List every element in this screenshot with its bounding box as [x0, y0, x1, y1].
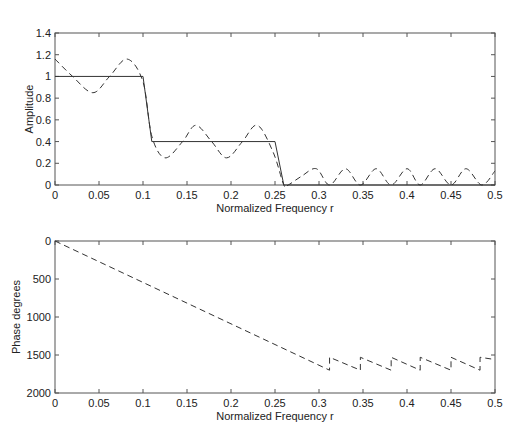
x-tick-label: 0.1: [135, 397, 150, 409]
series-line-desired-response: [55, 76, 495, 185]
y-tick-label: 2000: [27, 387, 51, 399]
x-tick-label: 0: [52, 397, 58, 409]
x-tick-label: 0.15: [176, 397, 197, 409]
x-tick-label: 0.5: [487, 397, 502, 409]
y-tick-label: 1: [45, 70, 51, 82]
x-tick-label: 0.45: [440, 397, 461, 409]
x-tick-label: 0.05: [88, 397, 109, 409]
y-tick-label: 0: [45, 235, 51, 247]
series-line-designed-filter-response: [55, 59, 495, 188]
x-axis-label: Normalized Frequency r: [216, 202, 334, 214]
figure: 00.050.10.150.20.250.30.350.40.450.500.2…: [0, 0, 521, 430]
y-axis-label: Phase degrees: [10, 280, 22, 354]
x-tick-label: 0.3: [311, 189, 326, 201]
x-tick-label: 0.35: [352, 189, 373, 201]
x-tick-label: 0.35: [352, 397, 373, 409]
y-tick-label: 0.8: [36, 92, 51, 104]
x-tick-label: 0.4: [399, 397, 414, 409]
amplitude-plot: 00.050.10.150.20.250.30.350.40.450.500.2…: [23, 27, 503, 214]
y-tick-label: 0.4: [36, 136, 51, 148]
axes-box: [55, 33, 495, 185]
x-tick-label: 0.2: [223, 189, 238, 201]
phase-plot: 00.050.10.150.20.250.30.350.40.450.50500…: [10, 235, 503, 422]
y-tick-label: 1.2: [36, 49, 51, 61]
x-axis-label: Normalized Frequency r: [216, 410, 334, 422]
x-tick-label: 0: [52, 189, 58, 201]
x-tick-label: 0.1: [135, 189, 150, 201]
x-tick-label: 0.3: [311, 397, 326, 409]
y-tick-label: 500: [33, 273, 51, 285]
y-tick-label: 1000: [27, 311, 51, 323]
y-tick-label: 1.4: [36, 27, 51, 39]
y-axis-label: Amplitude: [23, 85, 35, 134]
x-tick-label: 0.5: [487, 189, 502, 201]
y-tick-label: 0.2: [36, 157, 51, 169]
chart-canvas: 00.050.10.150.20.250.30.350.40.450.500.2…: [0, 0, 521, 430]
y-tick-label: 1500: [27, 349, 51, 361]
y-tick-label: 0: [45, 179, 51, 191]
axes-box: [55, 241, 495, 393]
x-tick-label: 0.2: [223, 397, 238, 409]
x-tick-label: 0.05: [88, 189, 109, 201]
x-tick-label: 0.45: [440, 189, 461, 201]
x-tick-label: 0.15: [176, 189, 197, 201]
y-tick-label: 0.6: [36, 114, 51, 126]
x-tick-label: 0.25: [264, 189, 285, 201]
x-tick-label: 0.4: [399, 189, 414, 201]
series-line-phase: [55, 241, 495, 370]
x-tick-label: 0.25: [264, 397, 285, 409]
